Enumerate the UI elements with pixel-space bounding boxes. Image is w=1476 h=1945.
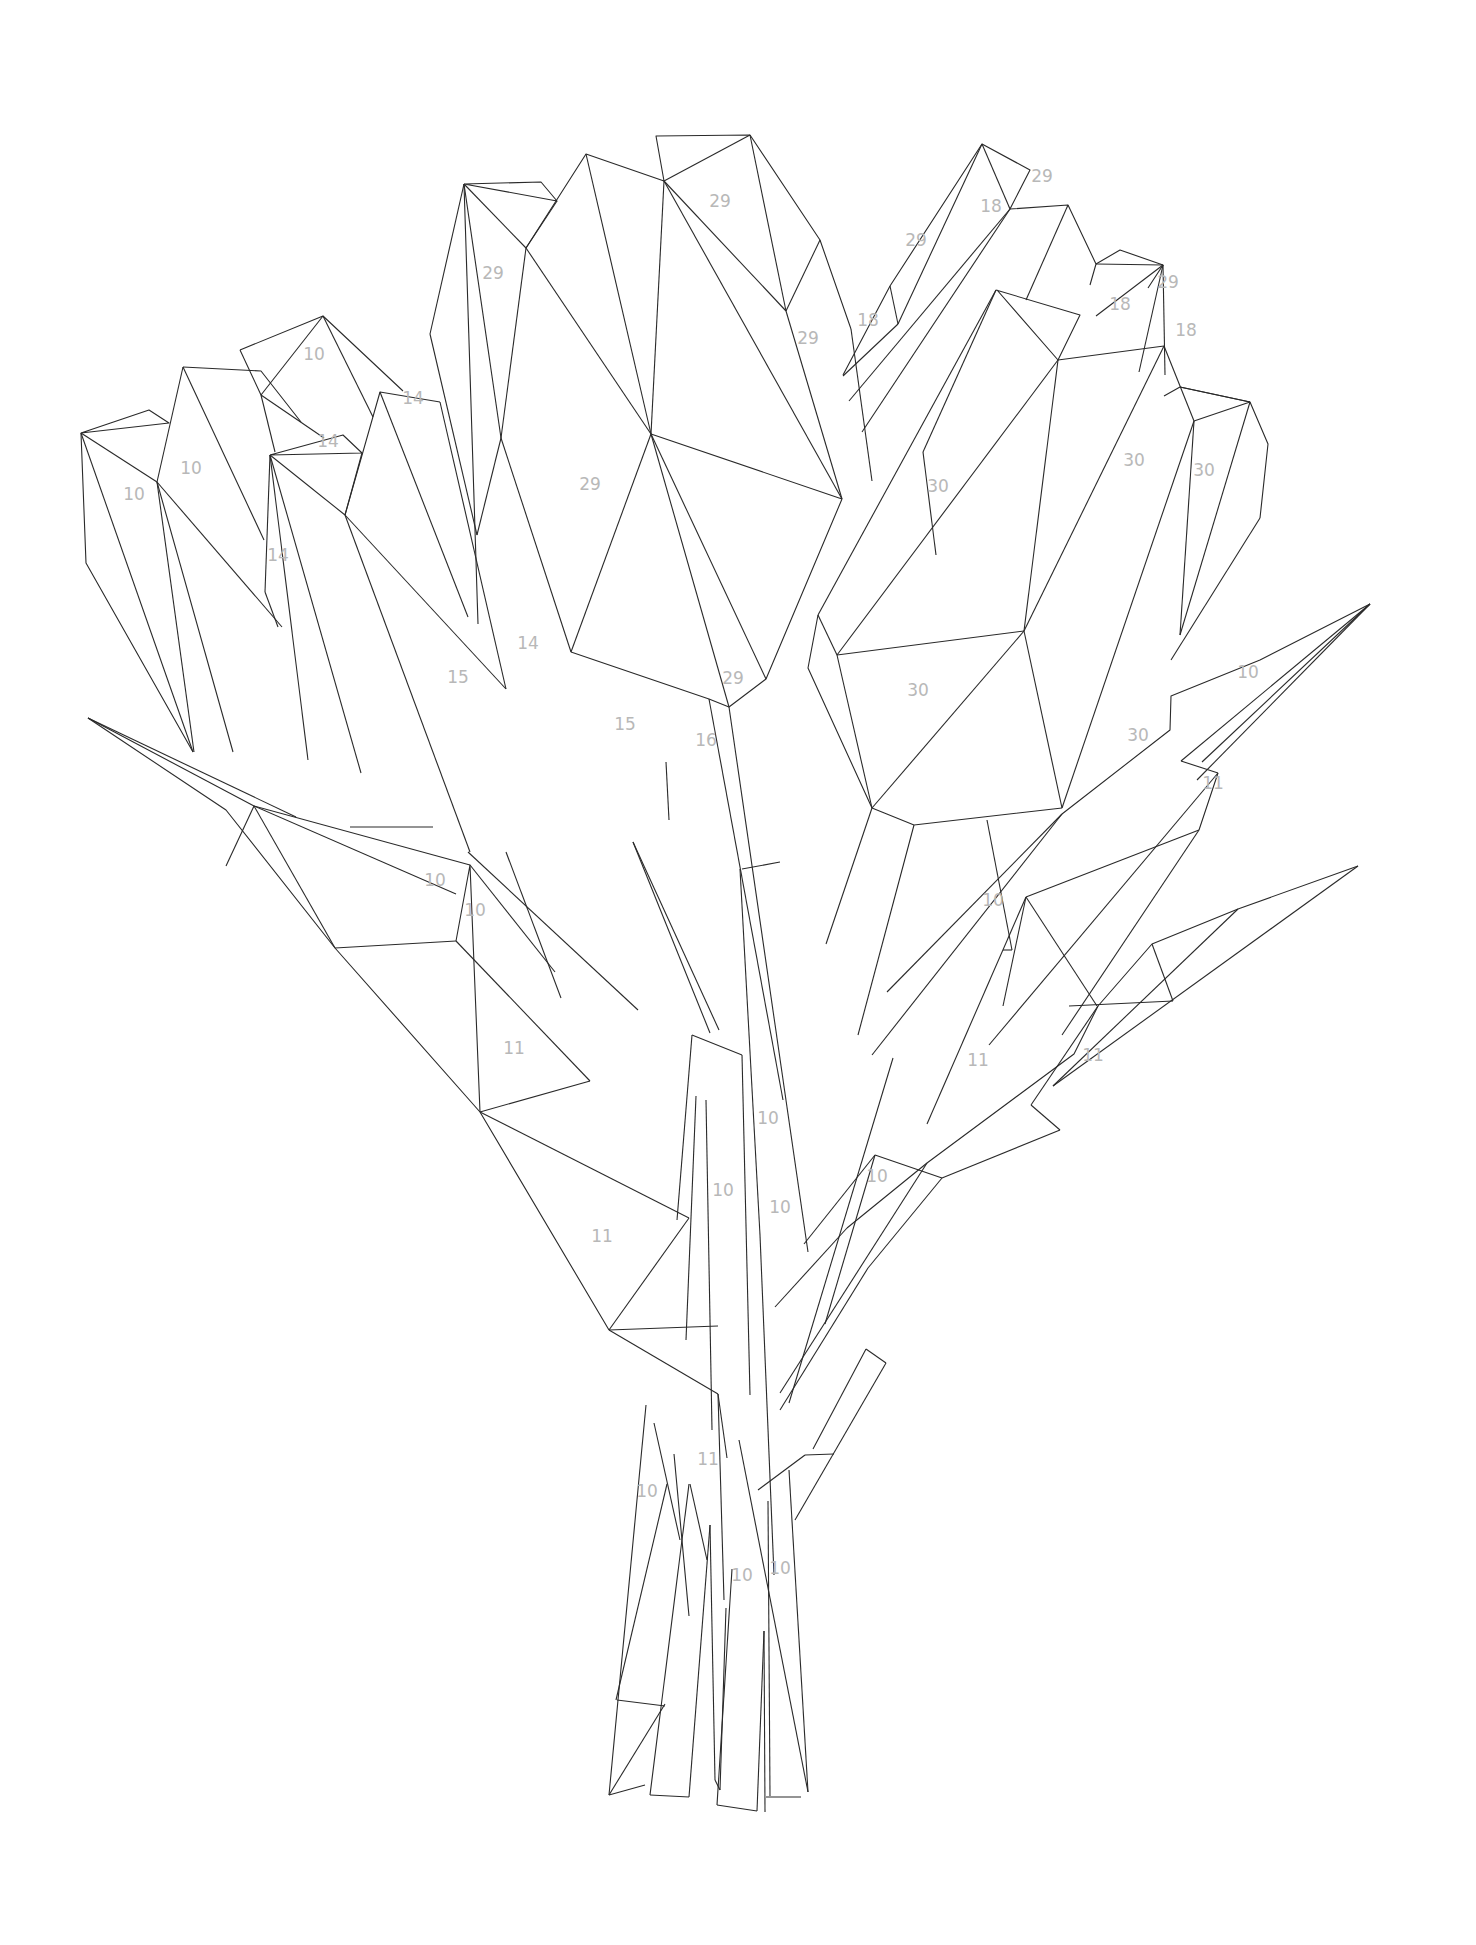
region-number-label: 30	[927, 476, 949, 496]
region-number-label: 18	[1175, 320, 1197, 340]
region-number-label: 10	[636, 1481, 658, 1501]
region-number-label: 10	[769, 1558, 791, 1578]
region-number-label: 29	[482, 263, 504, 283]
region-number-label: 29	[905, 230, 927, 250]
region-number-label: 14	[267, 545, 289, 565]
region-number-label: 10	[757, 1108, 779, 1128]
region-number-label: 14	[517, 633, 539, 653]
region-number-label: 10	[303, 344, 325, 364]
region-number-label: 10	[424, 870, 446, 890]
region-number-label: 10	[712, 1180, 734, 1200]
region-number-label: 29	[797, 328, 819, 348]
region-number-label: 10	[1237, 662, 1259, 682]
region-number-label: 29	[709, 191, 731, 211]
region-number-label: 15	[447, 667, 469, 687]
region-number-label: 11	[591, 1226, 613, 1246]
region-number-label: 18	[980, 196, 1002, 216]
region-number-label: 10	[464, 900, 486, 920]
region-number-label: 11	[503, 1038, 525, 1058]
region-number-label: 18	[1109, 294, 1131, 314]
region-number-label: 29	[1031, 166, 1053, 186]
region-number-label: 10	[982, 890, 1004, 910]
region-number-label: 10	[769, 1197, 791, 1217]
region-number-labels: 1010101414142929292929182918182918303030…	[0, 0, 1476, 1945]
region-number-label: 10	[180, 458, 202, 478]
region-number-label: 30	[1123, 450, 1145, 470]
region-number-label: 10	[866, 1166, 888, 1186]
region-number-label: 15	[614, 714, 636, 734]
region-number-label: 11	[1082, 1045, 1104, 1065]
region-number-label: 30	[907, 680, 929, 700]
region-number-label: 18	[857, 310, 879, 330]
region-number-label: 29	[579, 474, 601, 494]
region-number-label: 30	[1127, 725, 1149, 745]
region-number-label: 11	[967, 1050, 989, 1070]
region-number-label: 14	[402, 388, 424, 408]
region-number-label: 16	[695, 730, 717, 750]
region-number-label: 11	[697, 1449, 719, 1469]
region-number-label: 30	[1193, 460, 1215, 480]
region-number-label: 10	[123, 484, 145, 504]
region-number-label: 11	[1202, 773, 1224, 793]
region-number-label: 29	[722, 668, 744, 688]
region-number-label: 29	[1157, 272, 1179, 292]
region-number-label: 10	[731, 1565, 753, 1585]
region-number-label: 14	[317, 431, 339, 451]
